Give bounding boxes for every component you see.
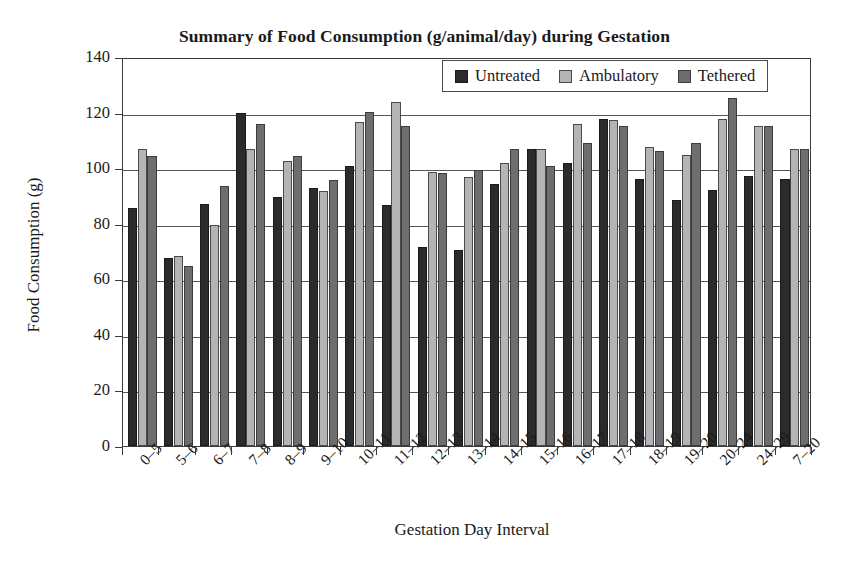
- x-tick-mark: [485, 447, 486, 455]
- bar-ambulatory: [790, 149, 799, 446]
- chart-title: Summary of Food Consumption (g/animal/da…: [0, 26, 849, 47]
- bar-ambulatory: [138, 149, 147, 446]
- bar-untreated: [635, 179, 644, 446]
- x-tick-mark: [775, 447, 776, 455]
- bar-untreated: [236, 113, 245, 446]
- bar-group: [200, 59, 229, 446]
- bar-ambulatory: [391, 102, 400, 446]
- bar-group: [382, 59, 411, 446]
- bar-untreated: [490, 184, 499, 446]
- x-tick-mark: [738, 447, 739, 455]
- bar-tethered: [619, 126, 628, 446]
- bar-group: [236, 59, 265, 446]
- bar-groups: [123, 59, 810, 446]
- y-axis-title: Food Consumption (g): [24, 125, 44, 385]
- bar-tethered: [800, 149, 809, 446]
- bar-tethered: [438, 173, 447, 446]
- bar-tethered: [401, 126, 410, 446]
- y-tick-label: 140: [64, 47, 110, 67]
- bar-tethered: [510, 149, 519, 446]
- bar-tethered: [365, 112, 374, 446]
- bar-tethered: [691, 143, 700, 446]
- bar-untreated: [454, 250, 463, 447]
- bar-ambulatory: [319, 191, 328, 446]
- bar-untreated: [200, 204, 209, 446]
- bar-tethered: [728, 98, 737, 446]
- y-tick-mark: [115, 169, 122, 170]
- x-tick-mark: [521, 447, 522, 455]
- bar-group: [780, 59, 809, 446]
- chart-figure: Summary of Food Consumption (g/animal/da…: [0, 0, 849, 571]
- legend-swatch-ambulatory-icon: [559, 70, 572, 83]
- bar-untreated: [527, 149, 536, 446]
- bar-untreated: [672, 200, 681, 447]
- bar-ambulatory: [355, 122, 364, 446]
- bar-group: [708, 59, 737, 446]
- bar-ambulatory: [609, 120, 618, 446]
- bar-tethered: [256, 124, 265, 446]
- x-tick-mark: [630, 447, 631, 455]
- bar-tethered: [474, 170, 483, 446]
- legend-swatch-tethered-icon: [678, 70, 691, 83]
- y-tick-label: 40: [64, 325, 110, 345]
- bar-untreated: [273, 197, 282, 446]
- plot-area: [122, 58, 811, 447]
- bar-ambulatory: [428, 172, 437, 446]
- bar-tethered: [220, 186, 229, 446]
- bar-tethered: [583, 143, 592, 446]
- legend-label: Tethered: [698, 66, 755, 86]
- bar-tethered: [546, 166, 555, 446]
- bar-untreated: [599, 119, 608, 446]
- bar-ambulatory: [210, 225, 219, 447]
- x-tick-mark: [593, 447, 594, 455]
- bar-group: [309, 59, 338, 446]
- bar-untreated: [744, 176, 753, 446]
- bar-group: [635, 59, 664, 446]
- x-tick-mark: [412, 447, 413, 455]
- y-tick-mark: [115, 280, 122, 281]
- y-tick-mark: [115, 225, 122, 226]
- x-tick-mark: [195, 447, 196, 455]
- y-tick-label: 100: [64, 158, 110, 178]
- bar-tethered: [655, 151, 664, 446]
- x-tick-mark: [702, 447, 703, 455]
- x-tick-mark: [231, 447, 232, 455]
- bar-ambulatory: [174, 256, 183, 446]
- bar-ambulatory: [645, 147, 654, 446]
- bar-tethered: [764, 126, 773, 446]
- bar-ambulatory: [573, 124, 582, 446]
- legend-item-untreated: Untreated: [455, 66, 540, 86]
- bar-untreated: [563, 163, 572, 446]
- bar-tethered: [184, 266, 193, 446]
- y-tick-label: 20: [64, 380, 110, 400]
- bar-group: [527, 59, 556, 446]
- x-axis-title: Gestation Day Interval: [122, 520, 822, 540]
- x-tick-mark: [666, 447, 667, 455]
- bar-untreated: [418, 247, 427, 446]
- x-tick-mark: [340, 447, 341, 455]
- legend-item-tethered: Tethered: [678, 66, 755, 86]
- bar-untreated: [309, 188, 318, 446]
- y-tick-label: 0: [64, 436, 110, 456]
- bar-group: [563, 59, 592, 446]
- bar-group: [672, 59, 701, 446]
- bar-ambulatory: [283, 161, 292, 446]
- x-tick-mark: [448, 447, 449, 455]
- x-tick-mark: [158, 447, 159, 455]
- bar-group: [418, 59, 447, 446]
- bar-tethered: [147, 156, 156, 446]
- bar-untreated: [708, 190, 717, 446]
- y-tick-label: 60: [64, 269, 110, 289]
- bar-group: [490, 59, 519, 446]
- y-tick-label: 80: [64, 214, 110, 234]
- bar-untreated: [382, 205, 391, 446]
- legend-label: Ambulatory: [579, 66, 659, 86]
- bar-ambulatory: [464, 177, 473, 446]
- bar-ambulatory: [536, 149, 545, 446]
- legend-label: Untreated: [475, 66, 540, 86]
- bar-ambulatory: [246, 149, 255, 446]
- legend-item-ambulatory: Ambulatory: [559, 66, 659, 86]
- chart-legend: UntreatedAmbulatoryTethered: [442, 60, 768, 92]
- bar-ambulatory: [682, 155, 691, 446]
- x-tick-mark: [376, 447, 377, 455]
